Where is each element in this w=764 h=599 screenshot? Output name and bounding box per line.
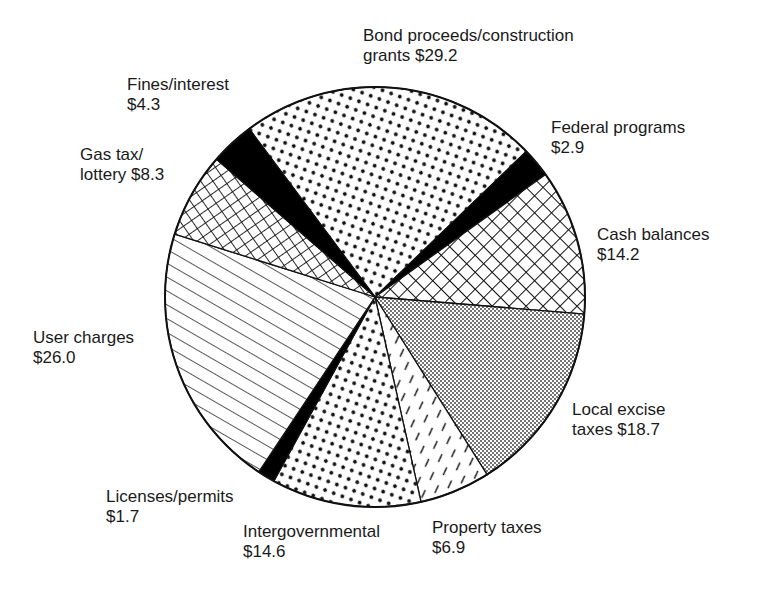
slice-label-line: $4.3 <box>127 95 229 115</box>
slice-label-line: $26.0 <box>33 348 134 368</box>
slice-label-line: Local excise <box>572 400 666 420</box>
slice-label-gas-tax-lottery: Gas tax/lottery $8.3 <box>80 145 164 185</box>
slice-label-line: User charges <box>33 328 134 348</box>
slice-label-line: grants $29.2 <box>363 46 574 66</box>
slice-label-line: Fines/interest <box>127 75 229 95</box>
slice-label-line: Intergovernmental <box>243 522 380 542</box>
slice-label-intergovernmental: Intergovernmental$14.6 <box>243 522 380 562</box>
slice-label-bond-proceeds-construction-grants: Bond proceeds/constructiongrants $29.2 <box>363 26 574 66</box>
slice-label-line: $2.9 <box>551 138 685 158</box>
slice-label-user-charges: User charges$26.0 <box>33 328 134 368</box>
slice-label-property-taxes: Property taxes$6.9 <box>432 518 542 558</box>
slice-label-line: $14.2 <box>597 245 709 265</box>
slice-label-local-excise-taxes: Local excisetaxes $18.7 <box>572 400 666 440</box>
slice-label-fines-interest: Fines/interest$4.3 <box>127 75 229 115</box>
slice-label-line: $1.7 <box>106 507 234 527</box>
slice-label-line: Property taxes <box>432 518 542 538</box>
slice-label-line: lottery $8.3 <box>80 165 164 185</box>
slice-label-line: Cash balances <box>597 225 709 245</box>
slice-label-cash-balances: Cash balances$14.2 <box>597 225 709 265</box>
slice-label-federal-programs: Federal programs$2.9 <box>551 118 685 158</box>
slice-label-line: $14.6 <box>243 542 380 562</box>
pie-slices <box>165 87 585 507</box>
slice-label-line: Licenses/permits <box>106 487 234 507</box>
slice-label-line: Federal programs <box>551 118 685 138</box>
slice-label-line: $6.9 <box>432 538 542 558</box>
slice-label-licenses-permits: Licenses/permits$1.7 <box>106 487 234 527</box>
slice-label-line: Gas tax/ <box>80 145 164 165</box>
slice-label-line: taxes $18.7 <box>572 420 666 440</box>
slice-label-line: Bond proceeds/construction <box>363 26 574 46</box>
